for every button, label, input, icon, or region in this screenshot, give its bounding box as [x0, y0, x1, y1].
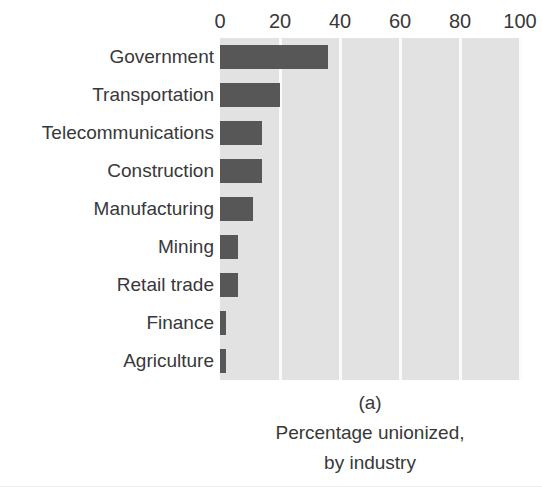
bar-row: [220, 114, 520, 152]
bar: [220, 273, 238, 297]
bar: [220, 349, 226, 373]
x-tick-label: 0: [214, 8, 225, 34]
category-axis-labels: GovernmentTransportationTelecommunicatio…: [0, 38, 214, 380]
caption-line-1: Percentage unionized,: [220, 418, 520, 448]
bar-row: [220, 76, 520, 114]
bar: [220, 197, 253, 221]
category-label: Retail trade: [0, 266, 214, 304]
x-tick-label: 60: [389, 8, 411, 34]
bar-series: [220, 38, 520, 380]
bar: [220, 45, 328, 69]
bar: [220, 159, 262, 183]
figure-caption: (a) Percentage unionized, by industry: [220, 388, 520, 478]
x-tick-label: 20: [269, 8, 291, 34]
bar: [220, 311, 226, 335]
x-tick-label: 100: [503, 8, 536, 34]
bar-chart-figure: 020406080100 GovernmentTransportationTel…: [0, 0, 542, 499]
bar-row: [220, 342, 520, 380]
bar-row: [220, 38, 520, 76]
category-label: Telecommunications: [0, 114, 214, 152]
category-label: Finance: [0, 304, 214, 342]
caption-line-2: by industry: [220, 448, 520, 478]
category-label: Manufacturing: [0, 190, 214, 228]
x-axis-tick-labels: 020406080100: [220, 8, 520, 34]
category-label: Transportation: [0, 76, 214, 114]
category-label: Government: [0, 38, 214, 76]
bar-row: [220, 190, 520, 228]
bottom-divider: [0, 486, 542, 487]
bar: [220, 235, 238, 259]
bar-row: [220, 266, 520, 304]
bar-row: [220, 304, 520, 342]
category-label: Mining: [0, 228, 214, 266]
bar: [220, 83, 280, 107]
bar-row: [220, 152, 520, 190]
category-label: Agriculture: [0, 342, 214, 380]
caption-panel-label: (a): [220, 388, 520, 418]
x-tick-label: 80: [449, 8, 471, 34]
bar: [220, 121, 262, 145]
category-label: Construction: [0, 152, 214, 190]
plot-area: [220, 38, 520, 380]
bar-row: [220, 228, 520, 266]
x-tick-label: 40: [329, 8, 351, 34]
